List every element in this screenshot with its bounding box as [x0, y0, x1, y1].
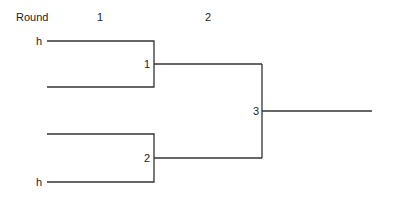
bracket-lines	[0, 0, 396, 204]
seed-label-match2-bottom: h	[36, 176, 42, 188]
seed-label-match1-top: h	[36, 35, 42, 47]
match-number-1: 1	[144, 58, 150, 70]
match-number-2: 2	[144, 152, 150, 164]
match-number-3: 3	[253, 105, 259, 117]
